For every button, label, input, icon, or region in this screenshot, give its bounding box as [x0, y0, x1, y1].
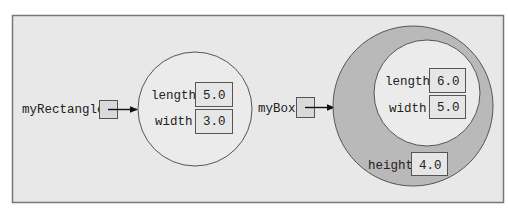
box-field-label-width: width [389, 102, 427, 116]
box-field-value-width: 5.0 [437, 101, 460, 115]
box-field-value-length: 6.0 [437, 75, 460, 89]
object-reference-diagram: myRectangle length 5.0 width 3.0 myBox l… [0, 0, 508, 215]
box-object: length 6.0 width 5.0 height 4.0 [333, 26, 493, 186]
rectangle-variable-label: myRectangle [22, 103, 105, 117]
box-field-label-height: height [368, 159, 413, 173]
rectangle-field-value-width: 3.0 [203, 115, 226, 129]
rectangle-object: length 5.0 width 3.0 [138, 52, 252, 166]
box-field-value-height: 4.0 [419, 159, 442, 173]
rectangle-field-label-width: width [155, 115, 193, 129]
rectangle-field-value-length: 5.0 [203, 89, 226, 103]
box-field-label-length: length [385, 75, 430, 89]
box-variable-label: myBox [258, 102, 296, 116]
rectangle-field-label-length: length [151, 89, 196, 103]
